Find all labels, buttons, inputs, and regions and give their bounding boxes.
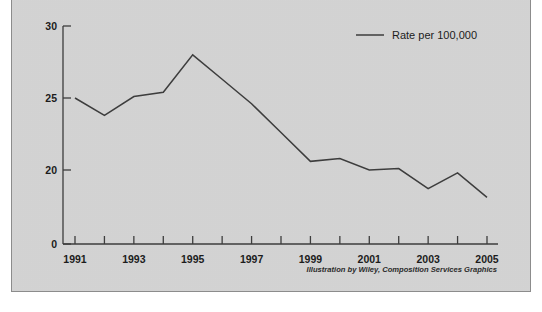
x-axis-labels: 19911993199519971999200120032005 [63,253,499,265]
x-tick-label-1999: 1999 [299,253,323,265]
x-tick-label-1991: 1991 [63,253,87,265]
legend: Rate per 100,000 [356,29,477,41]
credit-line: Illustration by Wiley, Composition Servi… [307,265,497,274]
figure-root: 30 25 20 0 19911993199519971999200120032… [0,0,542,312]
x-axis-ticks [75,236,487,244]
x-tick-label-2003: 2003 [416,253,440,265]
y-axis-ticks [63,26,71,244]
x-tick-label-1995: 1995 [181,253,205,265]
x-tick-label-2001: 2001 [358,253,382,265]
y-axis-labels: 30 25 20 0 [45,20,57,250]
x-tick-label-1997: 1997 [240,253,264,265]
x-tick-label-2005: 2005 [475,253,499,265]
axes-group [63,26,498,244]
line-chart-plot: 30 25 20 0 19911993199519971999200120032… [0,0,542,312]
y-tick-label-25: 25 [45,92,57,104]
y-tick-label-20: 20 [45,164,57,176]
series-line-rate-per-100000 [75,55,487,198]
x-tick-label-1993: 1993 [122,253,146,265]
legend-label-0: Rate per 100,000 [392,29,477,41]
y-tick-label-30: 30 [45,20,57,32]
y-tick-label-0: 0 [51,238,57,250]
